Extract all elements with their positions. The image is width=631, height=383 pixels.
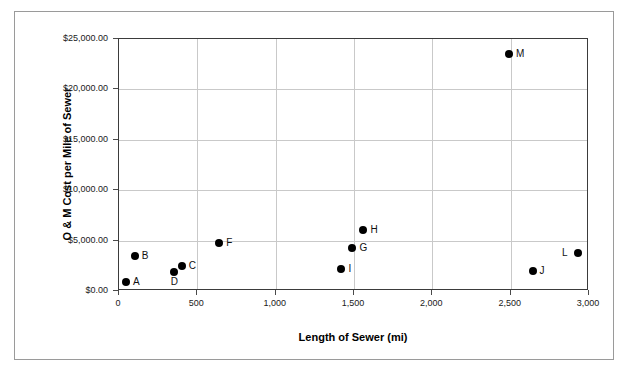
y-axis-tick-label: $25,000.00: [0, 33, 108, 43]
data-point-marker: [574, 249, 582, 257]
y-axis-title-wrapper: O & M Cost per Mile of Sewer: [30, 0, 44, 330]
y-axis-tick-label: $10,000.00: [0, 184, 108, 194]
x-axis-tick-label: 2,000: [401, 298, 461, 308]
data-point-label: I: [348, 263, 351, 274]
x-axis-tick-mark: [353, 290, 354, 295]
gridline-vertical: [197, 39, 198, 289]
gridline-horizontal: [119, 140, 587, 141]
x-axis-tick-mark: [196, 290, 197, 295]
gridline-vertical: [511, 39, 512, 289]
data-point-marker: [348, 244, 356, 252]
x-axis-tick-label: 1,500: [323, 298, 383, 308]
data-point-marker: [359, 226, 367, 234]
gridline-vertical: [432, 39, 433, 289]
data-point-marker: [170, 268, 178, 276]
x-axis-tick-mark: [510, 290, 511, 295]
data-point-label: A: [133, 276, 140, 287]
y-axis-tick-label: $0.00: [0, 285, 108, 295]
gridline-horizontal: [119, 89, 587, 90]
x-axis-tick-label: 1,000: [245, 298, 305, 308]
data-point-label: M: [516, 48, 524, 59]
data-point-label: C: [189, 260, 196, 271]
data-point-label: J: [540, 265, 545, 276]
x-axis-tick-mark: [275, 290, 276, 295]
chart-figure: O & M Cost per Mile of Sewer $0.00$5,000…: [0, 0, 631, 383]
data-point-marker: [131, 252, 139, 260]
y-axis-tick-label: $5,000.00: [0, 235, 108, 245]
data-point-marker: [215, 239, 223, 247]
data-point-marker: [178, 262, 186, 270]
gridline-vertical: [354, 39, 355, 289]
x-axis-tick-label: 2,500: [480, 298, 540, 308]
data-point-label: H: [370, 224, 377, 235]
data-point-marker: [529, 267, 537, 275]
y-axis-tick-label: $15,000.00: [0, 134, 108, 144]
gridline-horizontal: [119, 241, 587, 242]
data-point-marker: [337, 265, 345, 273]
x-axis-tick-label: 0: [88, 298, 148, 308]
data-point-marker: [122, 278, 130, 286]
x-axis-tick-label: 3,000: [558, 298, 618, 308]
x-axis-tick-mark: [588, 290, 589, 295]
x-axis-title: Length of Sewer (mi): [118, 331, 588, 343]
y-axis-tick-label: $20,000.00: [0, 83, 108, 93]
data-point-label: L: [562, 247, 568, 258]
x-axis-tick-mark: [118, 290, 119, 295]
x-axis-tick-mark: [431, 290, 432, 295]
data-point-label: F: [226, 237, 232, 248]
x-axis-tick-label: 500: [166, 298, 226, 308]
plot-area: ABCDFGHIJLM: [118, 38, 588, 290]
gridline-horizontal: [119, 190, 587, 191]
data-point-label: D: [171, 276, 178, 287]
data-point-label: G: [359, 242, 367, 253]
gridline-vertical: [276, 39, 277, 289]
data-point-label: B: [142, 250, 149, 261]
